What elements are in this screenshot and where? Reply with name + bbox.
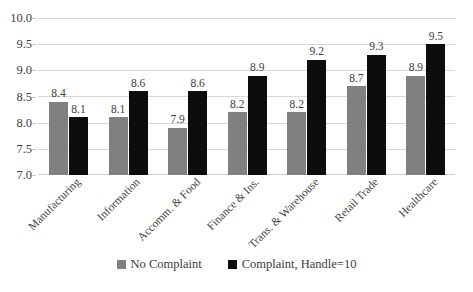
y-tick-label: 7.0 xyxy=(16,169,32,182)
bar-group: 8.29.2 xyxy=(276,18,336,175)
bar[interactable]: 8.9 xyxy=(406,76,425,175)
y-tick-label: 8.5 xyxy=(16,90,32,103)
bar-value-label: 8.1 xyxy=(71,104,85,116)
legend-item-label: No Complaint xyxy=(131,258,202,271)
x-tick-label-text: Retail Trade xyxy=(332,176,381,225)
bar[interactable]: 8.1 xyxy=(109,117,128,175)
bar[interactable]: 9.2 xyxy=(307,60,326,175)
bar-value-label: 8.6 xyxy=(131,78,145,90)
y-tick-mark xyxy=(32,18,36,19)
x-tick-label-text: Manufacturing xyxy=(26,176,83,233)
bar[interactable]: 8.6 xyxy=(129,91,148,175)
bar-group: 8.48.1 xyxy=(38,18,98,175)
bar-group: 7.98.6 xyxy=(157,18,217,175)
bar[interactable]: 8.4 xyxy=(49,102,68,175)
y-tick-label: 9.5 xyxy=(16,38,32,51)
legend-item-complaint-handle-10: Complaint, Handle=10 xyxy=(228,258,357,271)
y-tick-label: 10.0 xyxy=(10,12,32,25)
grouped-bar-chart: 10.0 9.5 9.0 8.5 8.0 7.5 7.0 8.48.18.18.… xyxy=(0,0,473,292)
y-tick-mark xyxy=(32,44,36,45)
bar[interactable]: 7.9 xyxy=(168,128,187,175)
y-tick-label: 8.0 xyxy=(16,116,32,129)
y-tick-label: 9.0 xyxy=(16,64,32,77)
bar-value-label: 8.1 xyxy=(111,104,125,116)
bar-value-label: 8.9 xyxy=(409,62,423,74)
bar-value-label: 8.4 xyxy=(51,88,65,100)
bar-value-label: 9.2 xyxy=(310,46,324,58)
bar-value-label: 9.3 xyxy=(369,41,383,53)
y-tick-label: 7.5 xyxy=(16,143,32,156)
x-tick-label-text: Accomm. & Food xyxy=(135,176,203,244)
legend-swatch-icon xyxy=(228,260,237,269)
bar-value-label: 7.9 xyxy=(170,114,184,126)
y-tick-mark xyxy=(32,175,36,176)
bar-value-label: 8.2 xyxy=(230,99,244,111)
legend-item-no-complaint: No Complaint xyxy=(117,258,202,271)
y-tick-mark xyxy=(32,70,36,71)
x-axis: ManufacturingInformationAccomm. & FoodFi… xyxy=(38,177,455,249)
bar-value-label: 8.7 xyxy=(349,73,363,85)
bar-group: 8.28.9 xyxy=(217,18,277,175)
plot-area: 8.48.18.18.67.98.68.28.98.29.28.79.38.99… xyxy=(38,18,455,175)
chart-legend: No Complaint Complaint, Handle=10 xyxy=(0,258,473,271)
x-tick-label-text: Finance & Ins. xyxy=(205,176,262,233)
bar[interactable]: 8.1 xyxy=(69,117,88,175)
bar-value-label: 8.9 xyxy=(250,62,264,74)
bar[interactable]: 8.6 xyxy=(188,91,207,175)
bar[interactable]: 9.3 xyxy=(367,55,386,175)
bar[interactable]: 8.9 xyxy=(248,76,267,175)
legend-swatch-icon xyxy=(117,260,126,269)
x-tick-label-text: Healthcare xyxy=(397,176,441,220)
bar[interactable]: 8.2 xyxy=(228,112,247,175)
x-tick-label-text: Information xyxy=(95,176,143,224)
bar-group: 8.18.6 xyxy=(98,18,158,175)
bar-value-label: 8.6 xyxy=(190,78,204,90)
bar-value-label: 9.5 xyxy=(429,31,443,43)
bar-group: 8.79.3 xyxy=(336,18,396,175)
bar[interactable]: 8.2 xyxy=(287,112,306,175)
bar[interactable]: 8.7 xyxy=(347,86,366,175)
y-axis: 10.0 9.5 9.0 8.5 8.0 7.5 7.0 xyxy=(0,18,36,175)
bar-group: 8.99.5 xyxy=(395,18,455,175)
y-tick-mark xyxy=(32,123,36,124)
legend-item-label: Complaint, Handle=10 xyxy=(242,258,357,271)
y-tick-mark xyxy=(32,97,36,98)
bar[interactable]: 9.5 xyxy=(426,44,445,175)
y-tick-mark xyxy=(32,149,36,150)
bar-value-label: 8.2 xyxy=(290,99,304,111)
